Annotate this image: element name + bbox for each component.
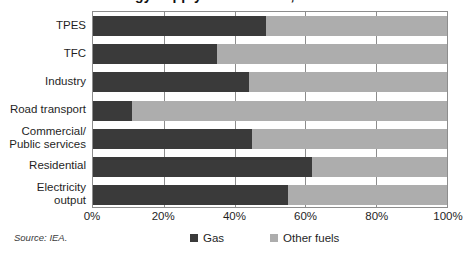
bar-segment-gas xyxy=(93,129,252,149)
bar-segment-other-fuels xyxy=(288,185,447,205)
bar-row xyxy=(93,101,447,121)
bar-row xyxy=(93,72,447,92)
category-label: TFC xyxy=(0,47,86,60)
bar-segment-gas xyxy=(93,157,312,177)
bar-segment-gas xyxy=(93,16,266,36)
source-note: Source: IEA. xyxy=(14,232,67,243)
bar-row xyxy=(93,157,447,177)
category-label: Road transport xyxy=(0,103,86,116)
x-axis-tick-label: 60% xyxy=(294,210,317,222)
bar-row xyxy=(93,44,447,64)
bar-segment-other-fuels xyxy=(217,44,447,64)
x-axis-tick-label: 100% xyxy=(433,210,462,222)
bar-segment-gas xyxy=(93,101,132,121)
category-label: Commercial/ Public services xyxy=(0,125,86,151)
bar-segment-other-fuels xyxy=(249,72,447,92)
bar-segment-other-fuels xyxy=(312,157,447,177)
bar-segment-other-fuels xyxy=(132,101,447,121)
chart-legend: GasOther fuels xyxy=(190,231,339,245)
bar-segment-gas xyxy=(93,44,217,64)
chart-plot-area xyxy=(92,11,448,208)
category-label: Electricity output xyxy=(0,181,86,207)
other-fuels-swatch xyxy=(270,234,278,242)
x-axis-tick-label: 20% xyxy=(152,210,175,222)
gas-swatch xyxy=(190,234,198,242)
x-axis: 0%20%40%60%80%100% xyxy=(92,210,448,226)
x-axis-tick-label: 80% xyxy=(365,210,388,222)
category-label: Industry xyxy=(0,75,86,88)
category-label: TPES xyxy=(0,19,86,32)
legend-item[interactable]: Gas xyxy=(190,232,224,244)
bar-row xyxy=(93,129,447,149)
bar-row xyxy=(93,185,447,205)
category-axis-labels: TPESTFCIndustryRoad transportCommercial/… xyxy=(0,11,86,208)
legend-label: Gas xyxy=(203,232,224,244)
bar-row xyxy=(93,16,447,36)
legend-item[interactable]: Other fuels xyxy=(270,232,339,244)
x-axis-tick-label: 0% xyxy=(84,210,101,222)
bar-segment-gas xyxy=(93,185,288,205)
legend-label: Other fuels xyxy=(283,232,339,244)
bar-segment-other-fuels xyxy=(252,129,447,149)
page-title: Gas share in energy supply and demand, 2… xyxy=(14,0,331,3)
bar-segment-gas xyxy=(93,72,249,92)
category-label: Residential xyxy=(0,159,86,172)
bar-segment-other-fuels xyxy=(266,16,447,36)
chart-title-strip: Gas share in energy supply and demand, 2… xyxy=(0,0,473,9)
x-axis-tick-label: 40% xyxy=(223,210,246,222)
